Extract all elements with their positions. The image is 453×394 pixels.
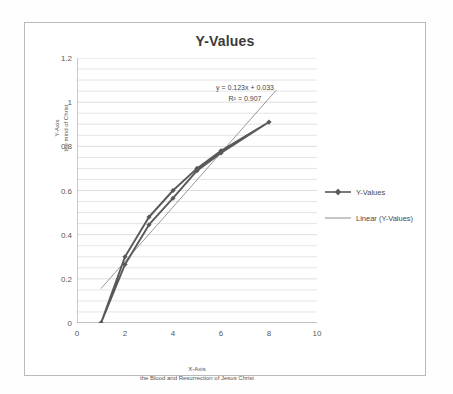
legend-item-y-values[interactable]: Y-Values	[325, 183, 425, 201]
plot-svg	[77, 58, 317, 323]
y-axis-title-sub: the mind of Christ	[62, 83, 71, 173]
chart-screenshot: Y-Values 00.20.40.60.811.2 0246810 y = 0…	[0, 0, 453, 394]
x-axis-title-main: X-Axis	[77, 365, 317, 374]
chart-frame: Y-Values 00.20.40.60.811.2 0246810 y = 0…	[24, 22, 426, 376]
chart-title: Y-Values	[25, 33, 425, 49]
y-tick-label: 0.6	[61, 186, 72, 195]
x-tick-label: 4	[171, 329, 175, 338]
series-markers-y-values	[98, 119, 271, 323]
y-tick-label: 0.4	[61, 230, 72, 239]
y-tick-label: 0	[68, 319, 72, 328]
trendline	[101, 90, 276, 288]
series-line-y-values	[101, 122, 269, 323]
y-tick-label: 0.2	[61, 274, 72, 283]
legend-marker-line-icon	[325, 213, 351, 223]
y-axis-title: Y-Axis the mind of Christ	[53, 83, 71, 173]
x-axis-title: X-Axis the Blood and Resurrection of Jes…	[77, 365, 317, 384]
x-tick-label: 6	[219, 329, 223, 338]
x-tick-label: 10	[313, 329, 322, 338]
y-tick-label: 1.2	[61, 54, 72, 63]
plot-area: 00.20.40.60.811.2 0246810	[77, 58, 317, 323]
legend-label-linear-y-values: Linear (Y-Values)	[356, 214, 413, 223]
x-tick-label: 2	[123, 329, 127, 338]
gridlines-group	[77, 58, 317, 323]
y-axis-title-main: Y-Axis	[53, 83, 62, 173]
legend-label-y-values: Y-Values	[356, 188, 385, 197]
x-axis-title-sub: the Blood and Resurrection of Jesus Chri…	[77, 374, 317, 383]
x-tick-label: 0	[75, 329, 79, 338]
legend-marker-diamond-icon	[325, 187, 351, 197]
legend-item-linear-y-values[interactable]: Linear (Y-Values)	[325, 209, 425, 227]
chart-legend: Y-Values Linear (Y-Values)	[325, 183, 425, 235]
x-tick-label: 8	[267, 329, 271, 338]
